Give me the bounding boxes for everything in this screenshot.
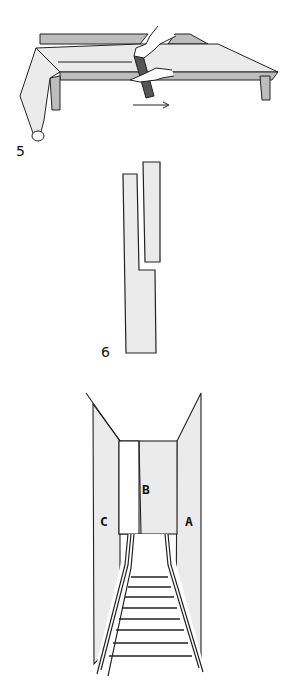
figure-5-number: 5 bbox=[16, 143, 25, 159]
wall-label-c: C bbox=[100, 514, 108, 529]
figure-6-strips-drawing bbox=[123, 162, 160, 353]
figure-5-table-drawing bbox=[20, 26, 278, 141]
corridor-drawing bbox=[86, 393, 205, 676]
wall-label-a: A bbox=[185, 514, 193, 529]
illustration-canvas: 5 6 bbox=[0, 0, 300, 684]
wall-label-b: B bbox=[142, 482, 150, 497]
figure-6-number: 6 bbox=[101, 344, 110, 360]
